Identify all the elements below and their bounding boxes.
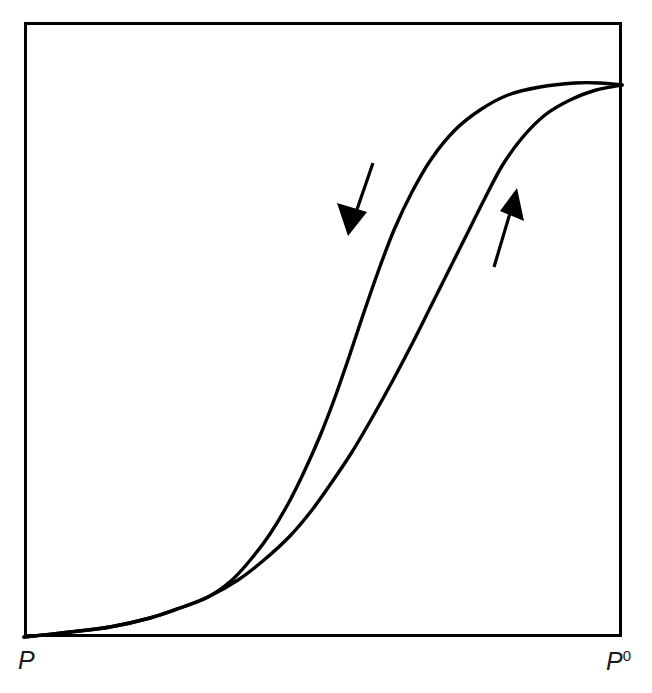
x-axis-label-right: P0 [606, 648, 631, 674]
desorption-arrow-head [337, 203, 367, 236]
hysteresis-figure: P P0 [0, 0, 652, 693]
desorption-curve [24, 83, 622, 637]
x-axis-label-left: P [18, 648, 35, 673]
adsorption-arrow [494, 188, 524, 267]
x-axis-label-right-base: P [606, 647, 623, 675]
desorption-arrow [337, 163, 373, 236]
adsorption-curve [24, 85, 622, 637]
isotherm-plot-canvas [0, 0, 652, 693]
x-axis-label-right-superscript: 0 [623, 647, 631, 664]
adsorption-arrow-head [500, 188, 524, 221]
x-axis-label-left-text: P [18, 646, 35, 674]
plot-frame [26, 24, 621, 636]
